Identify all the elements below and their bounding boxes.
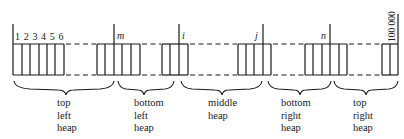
index-label-m: m bbox=[117, 31, 124, 41]
brace-bottom-right bbox=[268, 81, 331, 95]
index-label-end: 100 000 bbox=[387, 11, 397, 42]
brace-middle bbox=[181, 81, 262, 95]
index-label-start: 1 2 3 4 5 6 bbox=[15, 32, 64, 42]
index-label-n: n bbox=[321, 31, 326, 41]
brace-top-left bbox=[14, 81, 114, 95]
region-label-top-right-heap: top right heap bbox=[353, 97, 373, 135]
cell-group-n bbox=[305, 24, 347, 75]
region-label-top-left-heap: top left heap bbox=[57, 97, 77, 135]
region-label-bottom-right-heap: bottom right heap bbox=[281, 97, 311, 135]
brace-bottom-left bbox=[118, 81, 174, 95]
brace-top-right bbox=[334, 81, 398, 95]
region-label-bottom-left-heap: bottom left heap bbox=[134, 97, 164, 135]
index-label-i: i bbox=[182, 31, 185, 41]
index-label-j: j bbox=[255, 31, 258, 41]
region-label-middle-heap: middle heap bbox=[208, 97, 237, 122]
